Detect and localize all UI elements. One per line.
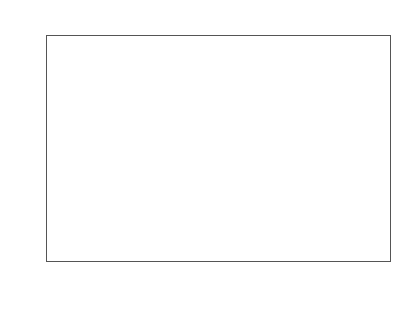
chart-legend — [363, 14, 397, 21]
legend-swatch-at-or-above-100-icon — [387, 14, 394, 21]
plot-area — [46, 35, 391, 262]
bar-series-group — [47, 36, 390, 261]
legend-item-at-or-above-100 — [387, 14, 397, 21]
chart-container — [0, 0, 409, 331]
legend-swatch-below-100-icon — [363, 14, 370, 21]
y-axis — [0, 35, 42, 262]
x-axis — [46, 266, 391, 328]
legend-item-below-100 — [363, 14, 373, 21]
